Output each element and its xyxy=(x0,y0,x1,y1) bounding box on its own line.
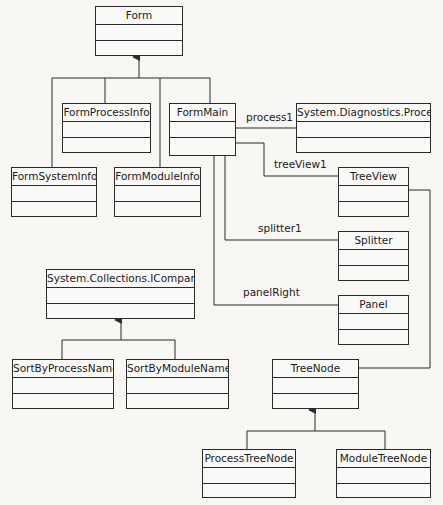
class-name: TreeNode xyxy=(273,360,358,378)
class-attributes xyxy=(337,468,430,484)
class-name: Splitter xyxy=(339,232,408,250)
class-treenode: TreeNode xyxy=(272,359,359,409)
class-name: FormProcessInfo xyxy=(63,104,150,122)
class-name: Panel xyxy=(339,296,408,314)
class-form: Form xyxy=(95,6,183,56)
class-operations xyxy=(170,138,235,153)
class-name: SortByProcessName xyxy=(13,360,113,378)
class-treeview: TreeView xyxy=(338,167,409,217)
class-system-diagnostics-process: System.Diagnostics.Process xyxy=(296,103,431,153)
class-attributes xyxy=(339,250,408,266)
class-attributes xyxy=(203,468,295,484)
label-splitter1: splitter1 xyxy=(258,222,302,234)
class-attributes xyxy=(63,122,150,138)
class-attributes xyxy=(96,25,182,41)
label-treeview1: treeView1 xyxy=(274,158,327,170)
label-process1: process1 xyxy=(246,111,293,123)
class-attributes xyxy=(127,378,228,394)
class-operations xyxy=(115,202,200,217)
class-attributes xyxy=(273,378,358,394)
class-operations xyxy=(13,394,113,409)
class-name: Form xyxy=(96,7,182,25)
class-attributes xyxy=(47,288,194,304)
class-operations xyxy=(339,330,408,345)
class-name: FormSystemInfo xyxy=(12,168,96,186)
class-operations xyxy=(297,138,430,153)
class-name: FormModuleInfo xyxy=(115,168,200,186)
class-name: TreeView xyxy=(339,168,408,186)
treenode-inheritance-connector xyxy=(247,410,385,449)
class-attributes xyxy=(339,186,408,202)
class-name: FormMain xyxy=(170,104,235,122)
class-moduletreenode: ModuleTreeNode xyxy=(336,449,431,498)
class-attributes xyxy=(297,122,430,138)
class-splitter: Splitter xyxy=(338,231,409,281)
class-operations xyxy=(12,202,96,217)
class-operations xyxy=(63,138,150,153)
class-sortbymodulename: SortByModuleName xyxy=(126,359,229,409)
class-operations xyxy=(127,394,228,409)
class-attributes xyxy=(339,314,408,330)
class-formmain: FormMain xyxy=(169,103,236,156)
label-panelright: panelRight xyxy=(243,286,300,298)
class-operations xyxy=(96,41,182,56)
class-operations xyxy=(203,484,295,499)
class-attributes xyxy=(115,186,200,202)
class-operations xyxy=(47,304,194,319)
class-attributes xyxy=(12,186,96,202)
class-formmoduleinfo: FormModuleInfo xyxy=(114,167,201,217)
icomparer-inheritance-connector xyxy=(62,320,175,359)
class-formsysteminfo: FormSystemInfo xyxy=(11,167,97,217)
class-name: ModuleTreeNode xyxy=(337,450,430,468)
class-attributes xyxy=(170,122,235,138)
class-name: ProcessTreeNode xyxy=(203,450,295,468)
class-panel: Panel xyxy=(338,295,409,345)
class-operations xyxy=(339,202,408,217)
class-formprocessinfo: FormProcessInfo xyxy=(62,103,151,153)
class-attributes xyxy=(13,378,113,394)
class-name: System.Diagnostics.Process xyxy=(297,104,430,122)
class-operations xyxy=(273,394,358,409)
class-operations xyxy=(339,266,408,281)
class-processtreenode: ProcessTreeNode xyxy=(202,449,296,498)
class-name: System.Collections.IComparer xyxy=(47,270,194,288)
class-sortbyprocessname: SortByProcessName xyxy=(12,359,114,409)
class-name: SortByModuleName xyxy=(127,360,228,378)
class-operations xyxy=(337,484,430,499)
class-icomparer: System.Collections.IComparer xyxy=(46,269,195,319)
